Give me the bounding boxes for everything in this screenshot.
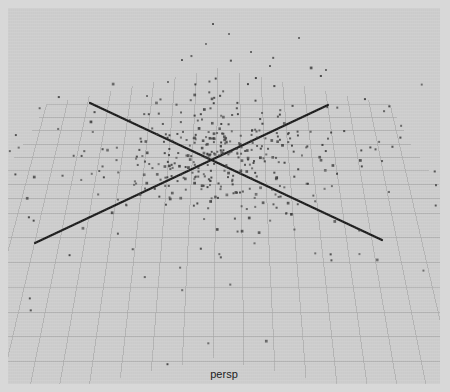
maya-viewport-window: persp [0,0,450,392]
persp-viewport[interactable]: persp [8,8,440,384]
3d-scene[interactable] [8,8,440,384]
scene-canvas[interactable] [8,8,440,384]
viewport-name-label: persp [8,368,440,380]
particle-points [9,23,440,365]
